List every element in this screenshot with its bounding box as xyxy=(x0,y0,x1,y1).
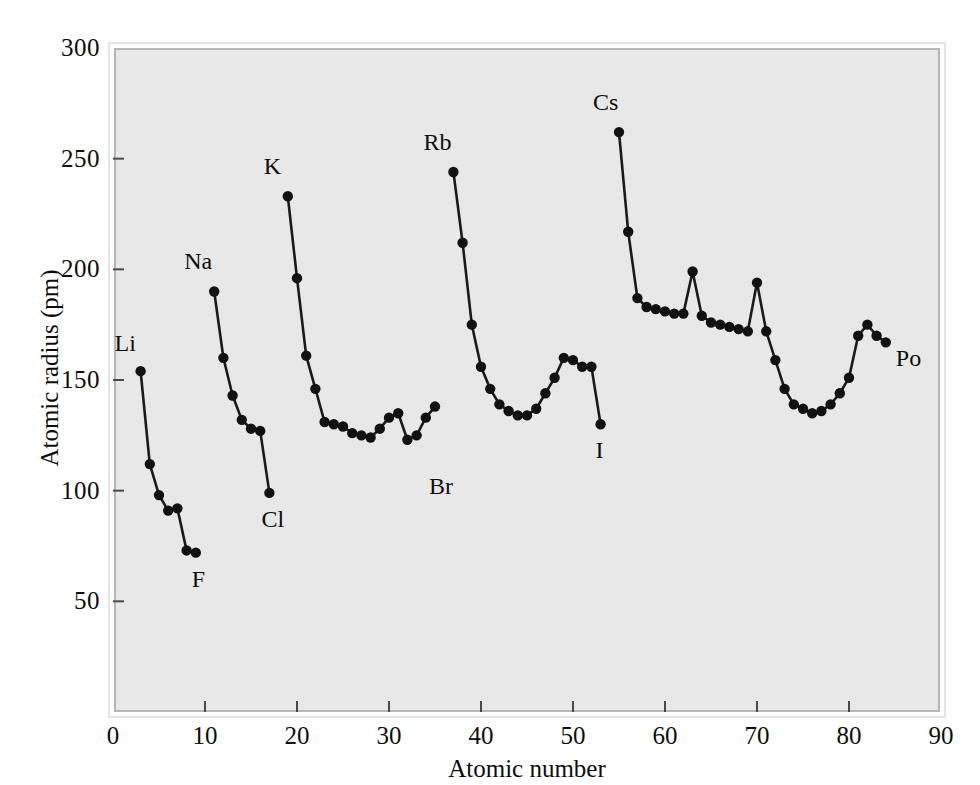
data-point xyxy=(448,167,458,177)
data-point xyxy=(816,406,826,416)
point-label-cs: Cs xyxy=(593,90,618,114)
point-label-po: Po xyxy=(896,346,921,370)
series-line xyxy=(453,172,600,424)
x-tick-label: 20 xyxy=(267,723,327,748)
series-period-4 xyxy=(283,191,441,445)
point-label-na: Na xyxy=(184,249,212,273)
data-point xyxy=(476,362,486,372)
series-period-3 xyxy=(209,286,275,498)
data-point xyxy=(375,423,385,433)
data-point xyxy=(881,337,891,347)
point-label-li: Li xyxy=(115,331,136,355)
data-point xyxy=(264,488,274,498)
data-point xyxy=(411,430,421,440)
data-point xyxy=(163,505,173,515)
point-label-k: K xyxy=(264,154,281,178)
series-period-2 xyxy=(135,366,201,558)
data-point xyxy=(191,547,201,557)
plot-area: LiFNaClKBrRbICsPo xyxy=(113,48,941,712)
data-point xyxy=(135,366,145,376)
series-line xyxy=(619,132,886,413)
x-tick-label: 10 xyxy=(175,723,235,748)
data-point xyxy=(789,399,799,409)
point-label-f: F xyxy=(192,567,205,591)
series-period-6 xyxy=(614,127,891,418)
data-point xyxy=(724,322,734,332)
data-point xyxy=(246,423,256,433)
data-point xyxy=(503,406,513,416)
data-point xyxy=(706,317,716,327)
data-point xyxy=(402,435,412,445)
series-line xyxy=(288,196,435,439)
data-point xyxy=(384,412,394,422)
series-line xyxy=(214,291,269,492)
data-point xyxy=(614,127,624,137)
x-tick-label: 40 xyxy=(451,723,511,748)
data-point xyxy=(743,326,753,336)
data-point xyxy=(862,319,872,329)
data-point xyxy=(825,399,835,409)
data-point xyxy=(669,308,679,318)
data-point xyxy=(255,426,265,436)
data-point xyxy=(761,326,771,336)
x-tick-label: 60 xyxy=(635,723,695,748)
data-point xyxy=(752,277,762,287)
data-point xyxy=(632,293,642,303)
point-label-br: Br xyxy=(429,474,453,498)
data-point xyxy=(540,388,550,398)
data-point xyxy=(310,384,320,394)
data-point xyxy=(568,355,578,365)
data-point xyxy=(237,415,247,425)
y-tick-label: 50 xyxy=(38,588,100,613)
data-point xyxy=(301,350,311,360)
data-point xyxy=(421,412,431,422)
atomic-radius-figure: LiFNaClKBrRbICsPo 50100150200250300 0102… xyxy=(0,0,980,785)
data-point xyxy=(733,324,743,334)
series-period-5 xyxy=(448,167,606,430)
data-point xyxy=(227,390,237,400)
data-point xyxy=(531,404,541,414)
data-point xyxy=(393,408,403,418)
data-point xyxy=(871,331,881,341)
data-point xyxy=(467,319,477,329)
data-point xyxy=(770,355,780,365)
data-point xyxy=(172,503,182,513)
data-point xyxy=(365,432,375,442)
data-point xyxy=(577,362,587,372)
x-axis-tick-labels: 0102030405060708090 xyxy=(113,723,941,757)
x-tick-label: 80 xyxy=(819,723,879,748)
data-point xyxy=(779,384,789,394)
x-axis-title: Atomic number xyxy=(113,756,941,782)
data-point xyxy=(513,410,523,420)
data-point xyxy=(356,430,366,440)
data-point xyxy=(586,362,596,372)
data-point xyxy=(457,238,467,248)
x-tick-label: 30 xyxy=(359,723,419,748)
data-point xyxy=(549,373,559,383)
data-point xyxy=(641,302,651,312)
data-point xyxy=(835,388,845,398)
data-point xyxy=(494,399,504,409)
data-point xyxy=(844,373,854,383)
data-point xyxy=(319,417,329,427)
data-point xyxy=(338,421,348,431)
data-point xyxy=(798,404,808,414)
x-tick-label: 70 xyxy=(727,723,787,748)
data-point xyxy=(145,459,155,469)
x-tick-label: 90 xyxy=(911,723,971,748)
data-point xyxy=(559,353,569,363)
x-tick-label: 50 xyxy=(543,723,603,748)
data-point xyxy=(283,191,293,201)
point-label-cl: Cl xyxy=(261,507,284,531)
data-point xyxy=(347,428,357,438)
point-label-i: I xyxy=(596,438,604,462)
data-point xyxy=(660,306,670,316)
data-point xyxy=(651,304,661,314)
data-point xyxy=(807,408,817,418)
y-axis-title: Atomic radius (pm) xyxy=(37,168,63,568)
data-point xyxy=(715,319,725,329)
data-point xyxy=(623,227,633,237)
data-point xyxy=(329,419,339,429)
y-tick-label: 300 xyxy=(38,35,100,60)
data-point xyxy=(522,410,532,420)
